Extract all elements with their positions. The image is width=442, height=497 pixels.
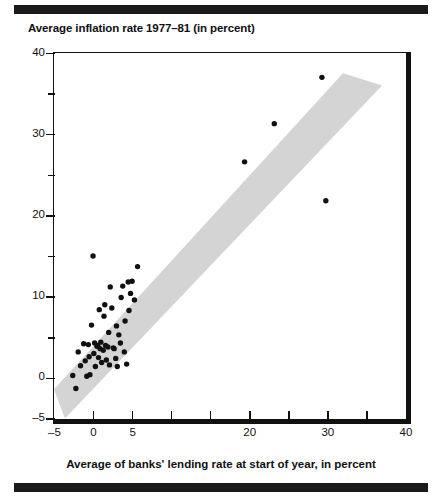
x-tick-label: 40: [381, 426, 431, 438]
data-point: [102, 302, 107, 307]
data-point: [101, 348, 106, 353]
data-point: [114, 323, 119, 328]
y-tick-minor: [48, 93, 55, 95]
y-tick-label: 10: [7, 289, 45, 301]
y-tick-minor: [48, 337, 55, 339]
data-point: [98, 339, 103, 344]
x-tick-label: 20: [225, 426, 275, 438]
data-point: [135, 264, 140, 269]
y-tick-minor: [48, 175, 55, 177]
data-point: [122, 318, 127, 323]
data-point: [118, 340, 123, 345]
data-point: [108, 284, 113, 289]
data-point: [90, 253, 95, 258]
y-tick-label: 0: [7, 370, 45, 382]
data-point: [81, 341, 86, 346]
data-point: [97, 307, 102, 312]
data-point: [106, 330, 111, 335]
y-tick-major: [46, 215, 55, 217]
x-tick-minor: [210, 411, 212, 419]
y-tick-label: 20: [7, 208, 45, 220]
data-point: [115, 364, 120, 369]
y-tick-label: –5: [7, 411, 45, 423]
shaded-band: [54, 73, 382, 418]
data-point: [76, 349, 81, 354]
x-tick-minor: [249, 411, 251, 419]
data-point: [105, 344, 110, 349]
x-axis-title: Average of banks' lending rate at start …: [0, 458, 442, 470]
x-tick-minor: [132, 411, 134, 419]
y-tick-label: 40: [7, 46, 45, 58]
figure-container: Average inflation rate 1977–81 (in perce…: [0, 0, 442, 497]
data-point: [87, 372, 92, 377]
data-point: [128, 291, 133, 296]
data-point: [96, 355, 101, 360]
plot-area: [54, 53, 406, 419]
data-point: [118, 295, 123, 300]
x-tick-minor: [288, 411, 290, 419]
data-point: [107, 362, 112, 367]
data-point: [323, 198, 328, 203]
y-tick-major: [46, 378, 55, 380]
data-point: [101, 313, 106, 318]
x-tick-minor: [93, 411, 95, 419]
data-point: [122, 349, 127, 354]
y-tick-major: [46, 418, 55, 420]
data-point: [70, 373, 75, 378]
data-point: [73, 386, 78, 391]
data-point: [113, 356, 118, 361]
chart-title: Average inflation rate 1977–81 (in perce…: [28, 22, 255, 34]
data-point: [91, 351, 96, 356]
data-point: [83, 358, 88, 363]
data-point: [116, 332, 121, 337]
x-tick-minor: [327, 411, 329, 419]
data-point: [86, 342, 91, 347]
bottom-rule-bar: [14, 483, 428, 492]
data-point: [104, 357, 109, 362]
data-point: [126, 308, 131, 313]
data-point: [129, 279, 134, 284]
data-point: [242, 159, 247, 164]
y-tick-major: [46, 296, 55, 298]
y-tick-label: 30: [7, 127, 45, 139]
y-tick-major: [46, 53, 55, 55]
scatter-plot-svg: [54, 53, 406, 419]
data-point: [319, 75, 324, 80]
data-point: [111, 346, 116, 351]
y-tick-minor: [48, 256, 55, 258]
top-rule-bar: [14, 5, 428, 14]
data-point: [93, 364, 98, 369]
data-point: [99, 360, 104, 365]
data-point: [109, 305, 114, 310]
data-point: [124, 361, 129, 366]
data-point: [120, 283, 125, 288]
data-point: [78, 363, 83, 368]
x-tick-label: 5: [108, 426, 158, 438]
x-tick-minor: [171, 411, 173, 419]
x-tick-minor: [366, 411, 368, 419]
x-tick-label: 30: [303, 426, 353, 438]
data-point: [132, 297, 137, 302]
y-tick-major: [46, 134, 55, 136]
plot-frame: [53, 52, 411, 424]
data-point: [86, 354, 91, 359]
data-point: [272, 121, 277, 126]
data-point: [89, 322, 94, 327]
